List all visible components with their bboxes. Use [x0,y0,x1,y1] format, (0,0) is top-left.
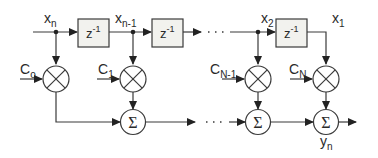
delay-box-2: z-1 [152,19,183,47]
multiplier-icon-4 [313,66,339,92]
junction-dot-3 [256,30,261,35]
multiplier-icon-1 [43,66,69,92]
junction-dot-2 [131,30,136,35]
delay-box-3: z-1 [276,19,307,47]
svg-text:Σ: Σ [128,114,137,131]
coef-label-c1: C1 [98,61,114,80]
coef-label-c0: Co [20,61,36,80]
coef-label-cn-1: CN-1 [210,61,237,80]
summer-icon-2: Σ [246,110,271,135]
mult1-to-sum [56,92,120,122]
x1-line [307,32,326,64]
coef-label-cn: CN [289,61,306,80]
junction-dot-1 [54,30,59,35]
signal-label-x1: x1 [332,10,345,29]
summer-icon-3: Σ [314,110,339,135]
summer-icon-1: Σ [121,110,146,135]
multiplier-icon-3 [245,66,271,92]
signal-label-xn-1: xn-1 [115,10,137,29]
fir-filter-diagram: z-1 z-1 z-1 Σ Σ [0,0,378,158]
signal-label-x2: x2 [261,10,274,29]
output-label-yn: yn [320,133,333,152]
multiplier-icon-2 [120,66,146,92]
delay-box-1: z-1 [78,19,109,47]
svg-text:Σ: Σ [321,114,330,131]
svg-text:Σ: Σ [253,114,262,131]
signal-label-xn: xn [44,10,57,29]
